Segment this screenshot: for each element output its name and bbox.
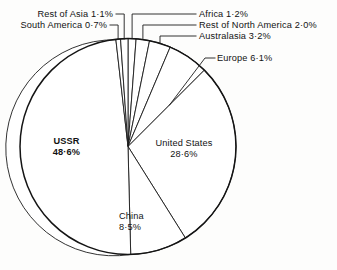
label-ussr-value: 48·6%: [53, 147, 80, 157]
label-europe: Europe 6·1%: [217, 53, 272, 63]
leader-south-america: [110, 25, 118, 40]
label-rest-of-asia: Rest of Asia 1·1%: [37, 9, 113, 19]
leader-africa: [132, 14, 196, 39]
label-australasia: Australasia 3·2%: [199, 31, 271, 41]
label-united-states-value: 28·6%: [170, 149, 197, 159]
label-china-value: 8·5%: [119, 222, 141, 232]
label-africa: Africa 1·2%: [199, 9, 248, 19]
pie-chart-figure: Rest of Asia 1·1% South America 0·7% Afr…: [0, 0, 337, 270]
leader-rest-of-north-america: [143, 25, 196, 40]
leader-rest-of-asia: [116, 14, 124, 39]
leader-australasia: [160, 36, 196, 43]
label-ussr-name: USSR: [53, 136, 79, 146]
label-united-states-name: United States: [155, 138, 212, 148]
chart-canvas: Rest of Asia 1·1% South America 0·7% Afr…: [0, 0, 337, 270]
label-rest-of-north-america: Rest of North America 2·0%: [199, 20, 317, 30]
label-south-america: South America 0·7%: [21, 20, 107, 30]
label-china-name: China: [119, 211, 144, 221]
